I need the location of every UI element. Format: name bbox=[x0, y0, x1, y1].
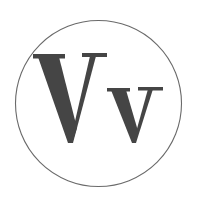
letter-v-emblem: V v bbox=[0, 0, 197, 205]
lowercase-v-glyph bbox=[107, 87, 163, 143]
outer-circle bbox=[16, 21, 182, 187]
uppercase-v-glyph bbox=[33, 53, 107, 143]
emblem-graphic: V v bbox=[0, 0, 197, 205]
